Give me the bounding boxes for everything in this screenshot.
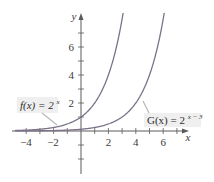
g-label-main: G(x) = 2 xyxy=(147,114,185,127)
x-tick-label: 6 xyxy=(160,136,166,148)
f-label: f(x) = 2 x xyxy=(20,98,60,112)
x-tick-label: 2 xyxy=(106,136,112,148)
y-tick-label: 6 xyxy=(69,41,75,53)
curve-g xyxy=(15,13,164,131)
f-label-leader xyxy=(42,113,57,125)
y-axis: 2 4 6 y xyxy=(69,10,85,174)
f-label-main: f(x) = 2 xyxy=(20,99,54,112)
x-tick-label: −4 xyxy=(20,136,32,148)
y-axis-arrow-icon xyxy=(79,13,84,20)
x-tick-label: −2 xyxy=(47,136,59,148)
y-tick-label: 2 xyxy=(69,97,75,109)
y-tick-label: 4 xyxy=(69,69,75,81)
exponential-graph: −4 −2 2 4 6 x 2 4 6 y f(x) = 2 x xyxy=(0,0,214,182)
x-tick-label: 4 xyxy=(133,136,139,148)
g-label-exponent: x − 3 xyxy=(187,113,203,121)
x-axis-label: x xyxy=(185,131,191,143)
f-label-exponent: x xyxy=(55,98,60,106)
y-axis-label: y xyxy=(71,10,77,22)
g-label-leader xyxy=(143,101,149,113)
